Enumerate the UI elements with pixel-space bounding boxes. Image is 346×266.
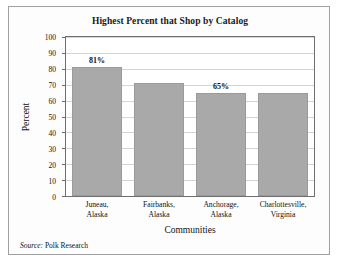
y-tick-label: 60 <box>49 96 57 105</box>
y-tick-label: 80 <box>49 64 57 73</box>
y-tick-label: 10 <box>49 176 57 185</box>
chart-figure: Highest Percent that Shop by Catalog Per… <box>8 6 330 255</box>
y-tick-label: 90 <box>49 48 57 57</box>
x-tick-label-line: Charlottesville, <box>252 200 314 210</box>
y-tick-label: 100 <box>45 33 56 42</box>
bar-group: 81%Juneau,Alaska <box>66 37 128 196</box>
y-tick-label: 40 <box>49 128 57 137</box>
bar-group: 65%Anchorage,Alaska <box>190 37 252 196</box>
x-tick-label-line: Anchorage, <box>190 200 252 210</box>
y-axis-title-text: Percent <box>21 102 31 131</box>
bar-value-label: 65% <box>190 82 252 91</box>
chart-title: Highest Percent that Shop by Catalog <box>9 16 331 26</box>
bar-series: 81%Juneau,AlaskaFairbanks,Alaska65%Ancho… <box>66 37 314 196</box>
x-tick-label-line: Virginia <box>252 210 314 220</box>
x-axis-title: Communities <box>65 225 315 235</box>
y-tick-label: 70 <box>49 80 57 89</box>
x-tick-label-line: Juneau, <box>66 200 128 210</box>
plot-area: 1009080706050403020100 81%Juneau,AlaskaF… <box>65 36 315 197</box>
bar[interactable] <box>196 93 247 196</box>
x-tick-label-line: Fairbanks, <box>128 200 190 210</box>
y-axis-title: Percent <box>19 36 33 197</box>
source-value: Polk Research <box>43 241 88 250</box>
x-tick-label-line: Alaska <box>190 210 252 220</box>
y-tick-label: 30 <box>49 144 57 153</box>
x-tick-label-line: Alaska <box>128 210 190 220</box>
source-note: Source: Polk Research <box>20 241 88 250</box>
bar[interactable] <box>72 67 123 196</box>
y-tick-label: 50 <box>49 113 57 122</box>
y-tick-mark: 0 <box>62 196 66 197</box>
x-tick-label: Juneau,Alaska <box>66 200 128 219</box>
x-tick-label-line: Alaska <box>66 210 128 220</box>
bar-group: Charlottesville,Virginia <box>252 37 314 196</box>
bar[interactable] <box>258 93 309 196</box>
bar-value-label: 81% <box>66 56 128 65</box>
x-tick-label: Fairbanks,Alaska <box>128 200 190 219</box>
y-tick-label: 0 <box>52 193 56 202</box>
x-tick-label: Charlottesville,Virginia <box>252 200 314 219</box>
x-tick-label: Anchorage,Alaska <box>190 200 252 219</box>
source-label: Source: <box>20 241 43 250</box>
bar[interactable] <box>134 83 185 196</box>
bar-group: Fairbanks,Alaska <box>128 37 190 196</box>
y-tick-label: 20 <box>49 160 57 169</box>
